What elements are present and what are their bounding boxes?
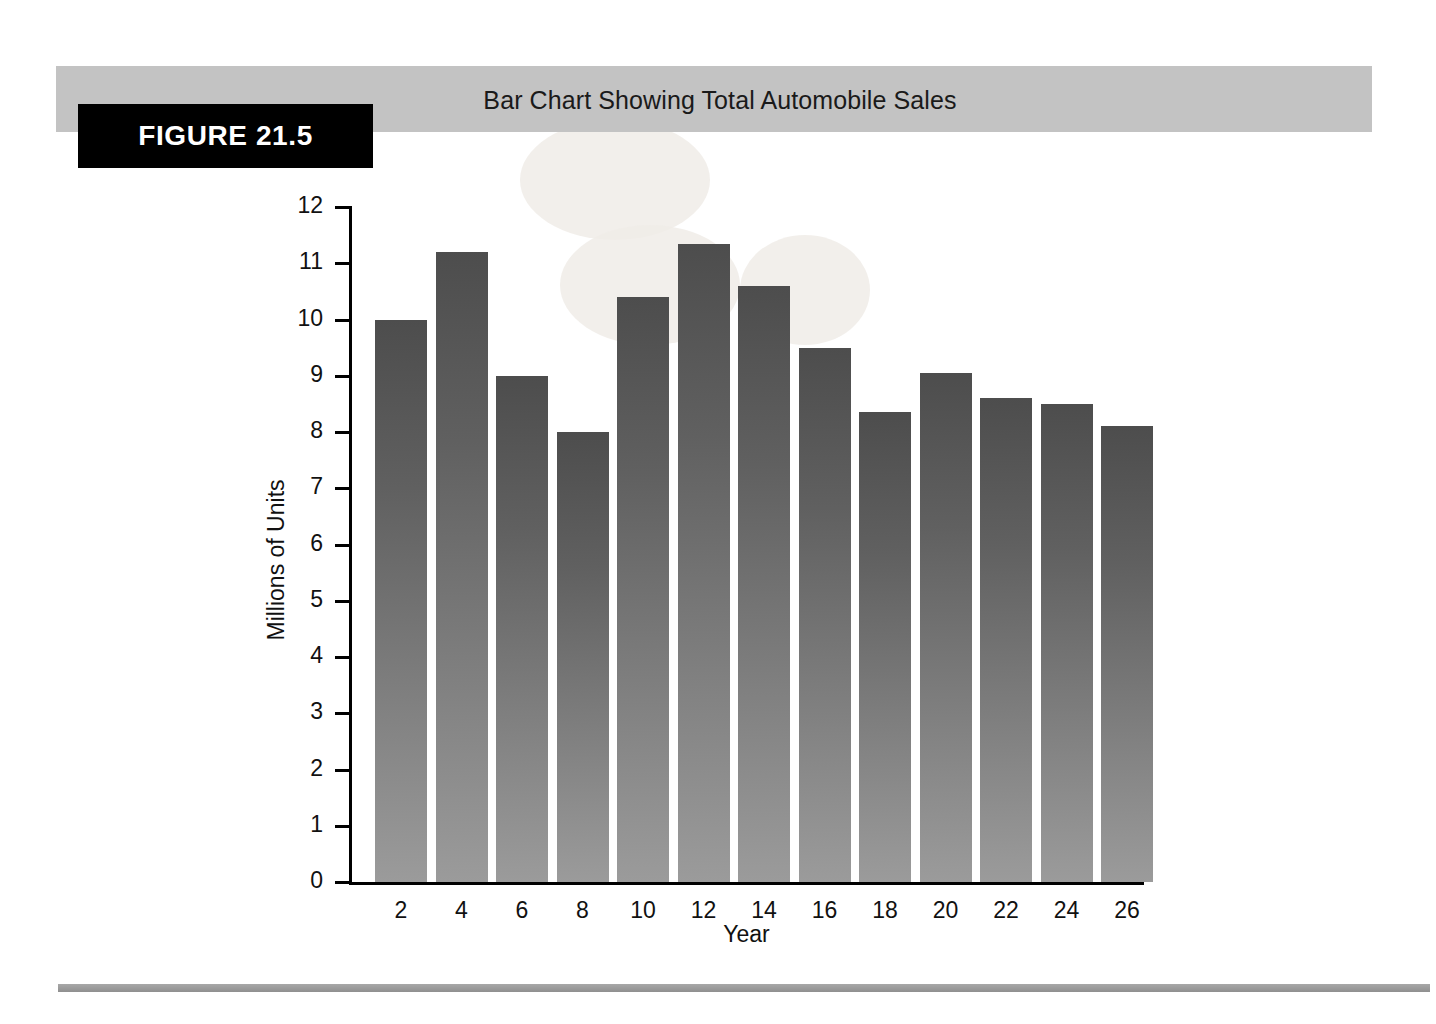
y-axis-tick: 3 xyxy=(335,712,352,715)
bar xyxy=(980,398,1032,882)
y-axis-tick-label: 1 xyxy=(283,812,323,836)
plot-area: 1211109876543210 2468101214161820222426 xyxy=(349,207,1144,882)
x-axis-tick-label: 8 xyxy=(557,897,609,924)
x-axis-tick-label: 18 xyxy=(859,897,911,924)
x-axis-tick-label: 16 xyxy=(799,897,851,924)
bar xyxy=(859,412,911,882)
bar xyxy=(799,348,851,882)
y-axis-tick: 4 xyxy=(335,656,352,659)
x-axis-tick-label: 24 xyxy=(1041,897,1093,924)
y-axis-tick: 9 xyxy=(335,375,352,378)
x-axis-tick-label: 12 xyxy=(678,897,730,924)
y-axis-tick: 7 xyxy=(335,487,352,490)
x-axis-tick-label: 6 xyxy=(496,897,548,924)
bar xyxy=(557,432,609,882)
x-axis-title: Year xyxy=(349,921,1144,948)
y-axis-tick-label: 4 xyxy=(283,643,323,667)
y-axis-tick: 0 xyxy=(335,881,352,884)
x-axis-tick-label: 4 xyxy=(436,897,488,924)
bar xyxy=(1101,426,1153,882)
y-axis-tick: 11 xyxy=(335,262,352,265)
y-axis-tick: 10 xyxy=(335,319,352,322)
x-axis-tick-label: 10 xyxy=(617,897,669,924)
x-axis-tick-label: 14 xyxy=(738,897,790,924)
x-axis-tick-label: 2 xyxy=(375,897,427,924)
y-axis-tick: 1 xyxy=(335,825,352,828)
y-axis-title: Millions of Units xyxy=(263,479,290,640)
bar xyxy=(738,286,790,882)
bar xyxy=(1041,404,1093,882)
figure-title: Bar Chart Showing Total Automobile Sales xyxy=(400,86,1040,115)
y-axis-tick-label: 12 xyxy=(283,193,323,217)
y-axis-tick: 5 xyxy=(335,600,352,603)
y-axis-tick: 6 xyxy=(335,544,352,547)
y-axis-tick-label: 9 xyxy=(283,362,323,386)
x-axis-tick-label: 20 xyxy=(920,897,972,924)
y-axis-tick-label: 8 xyxy=(283,418,323,442)
y-axis-tick-label: 2 xyxy=(283,756,323,780)
x-axis-tick-label: 26 xyxy=(1101,897,1153,924)
y-axis-tick: 12 xyxy=(335,206,352,209)
bar xyxy=(617,297,669,882)
y-axis-tick: 2 xyxy=(335,769,352,772)
bar xyxy=(678,244,730,882)
page-bottom-rule xyxy=(58,984,1430,992)
bar xyxy=(436,252,488,882)
y-axis-tick-label: 11 xyxy=(283,249,323,273)
bar xyxy=(920,373,972,882)
y-axis-tick-label: 3 xyxy=(283,699,323,723)
figure-number-badge: FIGURE 21.5 xyxy=(78,104,373,168)
bar xyxy=(375,320,427,883)
figure-container: Bar Chart Showing Total Automobile Sales… xyxy=(0,0,1436,1024)
y-axis-tick: 8 xyxy=(335,431,352,434)
x-axis-line xyxy=(349,882,1144,885)
y-axis-tick-label: 0 xyxy=(283,868,323,892)
x-axis-tick-label: 22 xyxy=(980,897,1032,924)
bar xyxy=(496,376,548,882)
figure-number-label: FIGURE 21.5 xyxy=(138,120,313,152)
y-axis-tick-label: 10 xyxy=(283,306,323,330)
